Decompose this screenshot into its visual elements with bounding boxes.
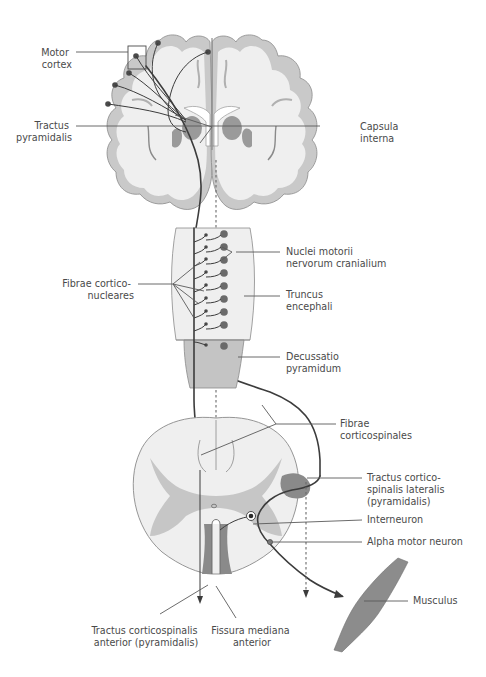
label-interneuron: Interneuron bbox=[367, 514, 423, 525]
spinal-cord-section bbox=[133, 417, 310, 574]
label-capsula-interna: Capsula interna bbox=[360, 121, 401, 144]
label-tractus-corticospinalis-anterior: Tractus corticospinalis anterior (pyrami… bbox=[90, 625, 200, 648]
pyramid-decussation-region bbox=[184, 340, 244, 388]
pyramidal-tract-diagram: Motor cortex Tractus pyramidalis Capsula… bbox=[0, 0, 486, 677]
nucleus-right bbox=[222, 116, 242, 140]
label-fissura-mediana-anterior: Fissura mediana anterior bbox=[211, 625, 292, 648]
label-tractus-pyramidalis: Tractus pyramidalis bbox=[16, 120, 72, 143]
label-motor-cortex: Motor cortex bbox=[41, 47, 72, 70]
label-fibrae-corticonucleares: Fibrae cortico- nucleares bbox=[62, 278, 134, 301]
label-tractus-corticospinalis-lateralis: Tractus cortico- spinalis lateralis (pyr… bbox=[366, 472, 448, 507]
label-musculus: Musculus bbox=[413, 595, 457, 606]
label-truncus-encephali: Truncus encephali bbox=[285, 289, 333, 312]
label-decussatio-pyramidum: Decussatio pyramidum bbox=[286, 351, 342, 374]
label-nuclei-motorii: Nuclei motorii nervorum cranialium bbox=[286, 246, 386, 269]
label-fibrae-corticospinales: Fibrae corticospinales bbox=[340, 418, 412, 441]
label-alpha-motor-neuron: Alpha motor neuron bbox=[367, 536, 463, 547]
alpha-motor-neuron-soma bbox=[267, 539, 272, 544]
musculus-shape bbox=[334, 558, 408, 652]
